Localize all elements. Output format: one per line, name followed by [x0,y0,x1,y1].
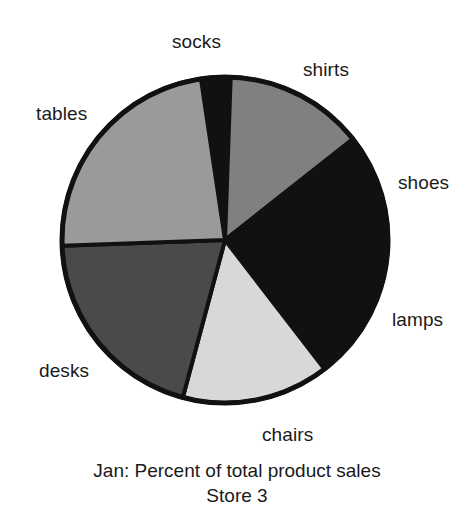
pie-label-socks: socks [172,32,221,51]
pie-label-chairs: chairs [262,425,313,444]
pie-label-lamps: lamps [392,310,443,329]
pie-label-shirts: shirts [303,60,349,79]
chart-title: Jan: Percent of total product sales [0,458,474,483]
pie-label-tables: tables [36,104,87,123]
chart-subtitle: Store 3 [0,483,474,508]
pie-label-shoes: shoes [398,173,449,192]
pie-label-desks: desks [39,361,89,380]
pie-chart-figure: socks shirts shoes lamps chairs desks ta… [0,0,474,518]
pie-chart-canvas [0,0,474,518]
chart-caption: Jan: Percent of total product sales Stor… [0,458,474,508]
